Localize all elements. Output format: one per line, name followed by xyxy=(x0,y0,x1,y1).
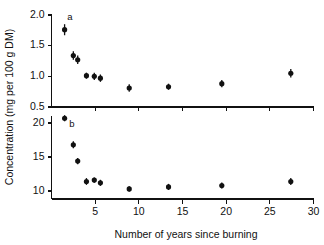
x-tick-label: 20 xyxy=(220,205,232,217)
panel-a-data-points xyxy=(62,24,293,91)
x-tick-label: 5 xyxy=(92,205,98,217)
y-tick-label: 0.5 xyxy=(30,100,45,112)
figure-container: Concentration (mg per 100 g DM) Number o… xyxy=(0,0,324,245)
panel-a-axes xyxy=(48,14,314,111)
x-tick-label: 25 xyxy=(264,205,276,217)
data-point xyxy=(166,184,171,190)
data-point xyxy=(75,158,80,164)
data-point xyxy=(98,74,103,81)
panel-a-label: a xyxy=(67,11,73,22)
x-tick-label: 30 xyxy=(308,205,320,217)
data-point xyxy=(288,69,293,78)
panel-a: 0.51.01.52.0 a xyxy=(30,8,314,112)
y-axis-title: Concentration (mg per 100 g DM) xyxy=(3,29,15,185)
data-point xyxy=(288,178,293,185)
panel-a-y-tick-labels: 0.51.01.52.0 xyxy=(30,8,45,112)
x-axis-tick-labels: 51015202530 xyxy=(92,205,319,217)
data-point xyxy=(71,141,76,148)
panel-b-label: b xyxy=(69,118,74,129)
data-point xyxy=(75,55,80,64)
data-point xyxy=(166,84,171,90)
data-point xyxy=(84,178,89,185)
x-axis-title: Number of years since burning xyxy=(115,228,258,240)
data-point xyxy=(92,177,97,182)
x-tick-label: 15 xyxy=(177,205,189,217)
y-tick-label: 20 xyxy=(33,116,45,128)
panel-b-data-points xyxy=(62,115,293,191)
data-point xyxy=(127,84,132,91)
panel-b-axes xyxy=(48,116,314,204)
panel-b: 101520 51015202530 b xyxy=(33,115,320,217)
panel-b-y-tick-labels: 101520 xyxy=(33,116,45,196)
x-tick-label: 10 xyxy=(133,205,145,217)
data-point xyxy=(62,115,67,121)
data-point xyxy=(92,73,97,80)
data-point xyxy=(84,73,89,79)
y-tick-label: 15 xyxy=(33,150,45,162)
data-point xyxy=(71,51,76,60)
data-point xyxy=(62,24,67,35)
data-point xyxy=(98,180,103,186)
y-tick-label: 1.0 xyxy=(30,69,45,81)
y-tick-label: 1.5 xyxy=(30,38,45,50)
data-point xyxy=(219,80,224,87)
data-point xyxy=(127,186,132,191)
y-tick-label: 10 xyxy=(33,184,45,196)
y-tick-label: 2.0 xyxy=(30,8,45,20)
data-point xyxy=(219,183,224,189)
scatter-plot-figure: Concentration (mg per 100 g DM) Number o… xyxy=(0,0,324,245)
